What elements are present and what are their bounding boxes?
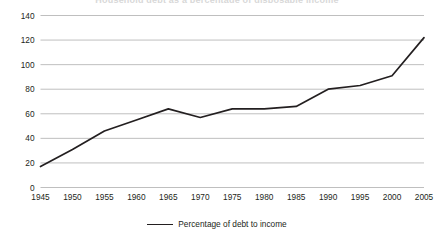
gridlines-group [41, 16, 425, 188]
line-chart-figure: Household debt as a percentage of dispos… [0, 0, 434, 239]
y-axis-tick-label: 20 [25, 158, 35, 168]
y-axis-tick-label: 40 [25, 133, 35, 143]
y-axis-tick-label: 140 [21, 11, 35, 21]
plot-area: 020406080100120140 194519501955196019651… [0, 0, 434, 239]
legend-line-swatch [147, 224, 173, 225]
legend-item-label: Percentage of debt to income [178, 219, 286, 229]
y-axis-tick-label: 100 [21, 60, 35, 70]
x-axis-tick-label: 1990 [319, 192, 338, 202]
x-axis-tick-label: 1945 [31, 192, 50, 202]
chart-legend: Percentage of debt to income [0, 219, 434, 229]
x-axis-tick-label: 1980 [255, 192, 274, 202]
x-axis-tick-label: 2000 [383, 192, 402, 202]
x-axis-tick-label: 1970 [191, 192, 210, 202]
x-axis-tick-labels: 1945195019551960196519701975198019851990… [31, 192, 433, 202]
x-axis-tick-label: 1955 [95, 192, 114, 202]
y-axis-tick-label: 60 [25, 109, 35, 119]
x-axis-tick-label: 1985 [287, 192, 306, 202]
x-axis-tick-label: 2005 [415, 192, 434, 202]
x-axis-tick-label: 1975 [223, 192, 242, 202]
x-axis-tick-label: 1995 [351, 192, 370, 202]
y-axis-tick-labels: 020406080100120140 [21, 11, 35, 193]
x-axis-tick-label: 1965 [159, 192, 178, 202]
x-axis-tick-label: 1950 [63, 192, 82, 202]
y-axis-tick-label: 120 [21, 35, 35, 45]
x-axis-tick-label: 1960 [127, 192, 146, 202]
data-series-line [41, 38, 425, 167]
y-axis-tick-label: 80 [25, 84, 35, 94]
